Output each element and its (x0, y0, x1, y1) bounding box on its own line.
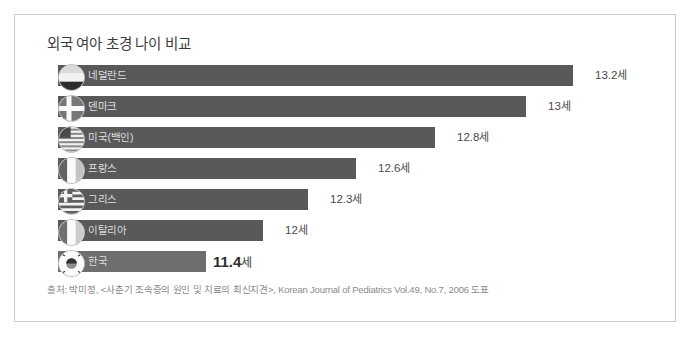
flag-italy-icon (58, 219, 85, 246)
value-number: 12.3 (330, 193, 352, 205)
country-label: 그리스 (88, 189, 117, 210)
bar-track: 한국 (58, 251, 206, 272)
country-label: 프랑스 (88, 158, 117, 179)
value-label: 12세 (285, 220, 308, 241)
value-label: 12.6세 (378, 158, 410, 179)
value-unit: 세 (241, 256, 252, 270)
value-label: 12.3세 (330, 189, 362, 210)
bar-track: 이탈리아 (58, 220, 263, 241)
value-number: 11.4 (213, 253, 241, 270)
flag-netherlands-icon (58, 64, 85, 91)
value-label: 13세 (548, 96, 571, 117)
bar-row: 프랑스12.6세 (15, 154, 677, 185)
infographic-frame: 외국 여아 초경 나이 비교 네덜란드13.2세덴마크13세미국(백인)12.8… (14, 14, 676, 322)
bar-fill (58, 65, 573, 86)
value-number: 13.2 (595, 69, 617, 81)
bar-track: 프랑스 (58, 158, 356, 179)
flag-denmark-icon (58, 95, 85, 122)
country-label: 이탈리아 (88, 220, 127, 241)
flag-usa-icon (58, 126, 85, 153)
bar-row: 덴마크13세 (15, 92, 677, 123)
source-citation: 출처: 박미정, <사춘기 조속증의 원인 및 치료의 최신지견>, Korea… (47, 282, 489, 296)
bar-row: 미국(백인)12.8세 (15, 123, 677, 154)
page-title: 외국 여아 초경 나이 비교 (47, 32, 190, 53)
value-number: 12.6 (378, 162, 400, 174)
value-number: 13 (548, 100, 561, 112)
bar-track: 네덜란드 (58, 65, 573, 86)
country-label: 미국(백인) (88, 127, 133, 148)
value-number: 12 (285, 224, 298, 236)
country-label: 덴마크 (88, 96, 117, 117)
bar-fill (58, 96, 526, 117)
flag-korea-icon (58, 250, 85, 277)
bar-track: 미국(백인) (58, 127, 435, 148)
value-label: 11.4세 (213, 251, 252, 272)
value-unit: 세 (352, 193, 362, 205)
flag-france-icon (58, 157, 85, 184)
bar-row: 이탈리아12세 (15, 216, 677, 247)
bar-track: 그리스 (58, 189, 308, 210)
flag-greece-icon (58, 188, 85, 215)
bar-track: 덴마크 (58, 96, 526, 117)
value-unit: 세 (617, 69, 627, 81)
bar-chart: 네덜란드13.2세덴마크13세미국(백인)12.8세프랑스12.6세그리스12.… (15, 61, 677, 278)
country-label: 네덜란드 (88, 65, 127, 86)
value-unit: 세 (400, 162, 410, 174)
value-unit: 세 (561, 100, 571, 112)
bar-row: 한국11.4세 (15, 247, 677, 278)
bar-row: 네덜란드13.2세 (15, 61, 677, 92)
value-number: 12.8 (457, 131, 479, 143)
value-label: 12.8세 (457, 127, 489, 148)
value-unit: 세 (479, 131, 489, 143)
value-unit: 세 (298, 224, 308, 236)
country-label: 한국 (88, 251, 107, 272)
bar-row: 그리스12.3세 (15, 185, 677, 216)
value-label: 13.2세 (595, 65, 627, 86)
